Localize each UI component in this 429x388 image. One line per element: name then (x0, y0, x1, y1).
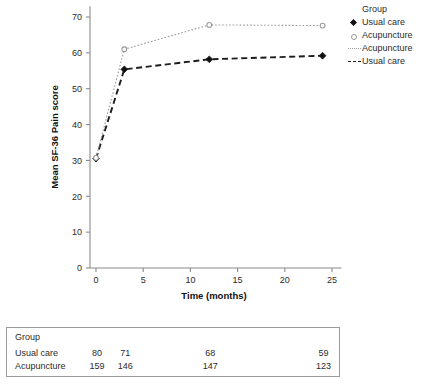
y-tick-label-10: 10 (72, 227, 82, 237)
legend-entry-1[interactable]: Acupuncture (348, 29, 428, 42)
marker-acupuncture-0 (94, 156, 99, 161)
legend-entry-label: Usual care (362, 55, 405, 68)
legend-entry-label: Acupuncture (362, 29, 413, 42)
risk-cell: 71 (120, 348, 130, 358)
risk-table-title: Group (15, 332, 40, 342)
series-line-usual-care (96, 56, 323, 159)
legend-entry-2[interactable]: Acupuncture (348, 42, 428, 55)
x-tick-label-20: 20 (280, 275, 290, 285)
risk-cell: 147 (203, 361, 218, 371)
marker-usual-care-24 (319, 52, 326, 59)
marker-usual-care-3 (121, 66, 128, 73)
y-tick-label-50: 50 (72, 84, 82, 94)
open-circle-marker-icon (351, 34, 357, 40)
y-tick-label-70: 70 (72, 12, 82, 22)
numbers-at-risk-table: Group Usual care80716859Acupuncture15914… (6, 327, 340, 377)
risk-row-label: Acupuncture (15, 361, 66, 371)
dotted-line-icon (348, 48, 361, 49)
circle-marker-icon (348, 29, 362, 42)
legend-entry-3[interactable]: Usual care (348, 55, 428, 68)
x-tick-label-5: 5 (141, 275, 146, 285)
risk-row-label: Usual care (15, 348, 58, 358)
y-tick-label-20: 20 (72, 192, 82, 202)
x-tick-label-10: 10 (185, 275, 195, 285)
legend: Group Usual careAcupunctureAcupunctureUs… (348, 4, 428, 68)
marker-usual-care-12 (206, 56, 213, 63)
legend-entry-label: Acupuncture (362, 42, 413, 55)
y-tick-label-0: 0 (77, 263, 82, 273)
series-line-acupuncture (96, 25, 323, 158)
table-row: Usual care80716859 (7, 348, 339, 361)
x-tick-label-0: 0 (93, 275, 98, 285)
marker-acupuncture-12 (207, 22, 212, 27)
filled-diamond-marker-icon (350, 19, 357, 26)
legend-entries: Usual careAcupunctureAcupunctureUsual ca… (348, 16, 428, 68)
y-tick-label-40: 40 (72, 120, 82, 130)
chart-figure: 0510152025010203040506070 Mean SF-36 Pai… (0, 0, 429, 388)
table-row: Acupuncture159146147123 (7, 361, 339, 374)
legend-entry-0[interactable]: Usual care (348, 16, 428, 29)
risk-cell: 59 (319, 348, 329, 358)
dashed-line-icon (348, 61, 361, 62)
x-tick-label-25: 25 (327, 275, 337, 285)
legend-entry-label: Usual care (362, 16, 405, 29)
risk-cell: 146 (118, 361, 133, 371)
risk-cell: 68 (205, 348, 215, 358)
risk-cell: 80 (92, 348, 102, 358)
diamond-marker-icon (348, 16, 362, 29)
x-tick-label-15: 15 (233, 275, 243, 285)
legend-title: Group (362, 4, 428, 14)
dotted-line-icon (348, 42, 362, 55)
y-tick-label-60: 60 (72, 48, 82, 58)
dashed-line-icon (348, 55, 362, 68)
risk-cell: 159 (89, 361, 104, 371)
marker-acupuncture-3 (122, 47, 127, 52)
marker-acupuncture-24 (320, 23, 325, 28)
y-tick-label-30: 30 (72, 156, 82, 166)
risk-cell: 123 (316, 361, 331, 371)
